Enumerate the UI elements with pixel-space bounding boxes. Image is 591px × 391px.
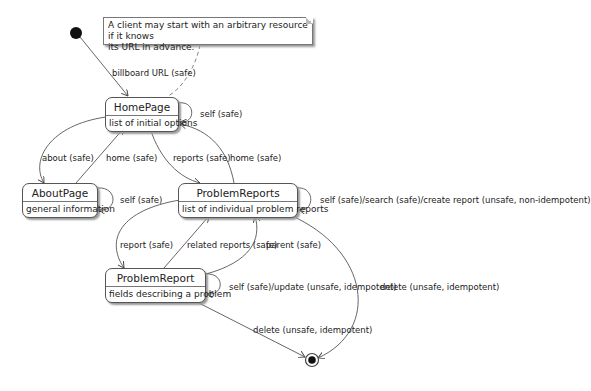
label-home-self: self (safe) — [200, 109, 242, 119]
label-parent: parent (safe) — [266, 240, 321, 250]
label-about-self: self (safe) — [120, 195, 162, 205]
state-title: ProblemReports — [179, 184, 297, 202]
note-line-1: A client may start with an arbitrary res… — [108, 20, 308, 42]
label-related: related reports (safe) — [187, 240, 277, 250]
state-title: HomePage — [106, 98, 178, 116]
label-report: report (safe) — [120, 240, 173, 250]
state-title: ProblemReport — [106, 269, 205, 287]
note-fold-icon — [306, 17, 313, 24]
label-about: about (safe) — [42, 153, 94, 163]
note-line-2: its URL in advance. — [108, 42, 308, 53]
state-problemreport[interactable]: ProblemReport fields describing a proble… — [105, 268, 206, 303]
state-problemreports[interactable]: ProblemReports list of individual proble… — [178, 183, 298, 218]
state-description: list of initial options — [106, 116, 178, 131]
label-reports-home: home (safe) — [230, 153, 281, 163]
label-about-home: home (safe) — [106, 153, 157, 163]
initial-state-icon — [70, 27, 82, 39]
label-billboard: billboard URL (safe) — [112, 68, 196, 78]
state-description: fields describing a problem — [106, 287, 205, 302]
state-title: AboutPage — [23, 184, 97, 202]
label-reports: reports (safe) — [173, 153, 231, 163]
label-report-self: self (safe)/update (unsafe, idempotent) — [229, 282, 397, 292]
state-aboutpage[interactable]: AboutPage general information — [22, 183, 98, 218]
state-homepage[interactable]: HomePage list of initial options — [105, 97, 179, 132]
label-reports-delete: delete (unsafe, idempotent) — [380, 282, 499, 292]
state-description: list of individual problem reports — [179, 202, 297, 217]
state-description: general information — [23, 202, 97, 217]
final-state-icon — [308, 356, 316, 364]
note: A client may start with an arbitrary res… — [103, 17, 313, 45]
label-report-delete: delete (unsafe, idempotent) — [253, 325, 372, 335]
label-reports-self: self (safe)/search (safe)/create report … — [320, 195, 591, 205]
